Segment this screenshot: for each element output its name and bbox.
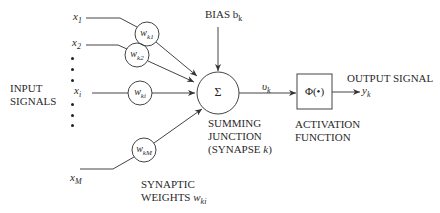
ellipsis-dot bbox=[71, 79, 74, 82]
weight-label-kM: wkM bbox=[132, 143, 156, 157]
output-signal-label: OUTPUT SIGNAL bbox=[347, 72, 433, 85]
input-line-xM bbox=[80, 157, 134, 169]
weight-line-kM bbox=[154, 109, 202, 143]
activation-symbol: Φ(•) bbox=[297, 85, 332, 97]
input-x1: x1 bbox=[73, 10, 82, 25]
synaptic-weights-label: SYNAPTIC WEIGHTS wki bbox=[141, 178, 206, 208]
sigma-symbol: Σ bbox=[208, 85, 228, 100]
output-yk: yk bbox=[362, 84, 370, 99]
bias-label: BIAS bk bbox=[205, 8, 242, 25]
input-signals-label: INPUT SIGNALS bbox=[10, 82, 56, 108]
weight-line-k1 bbox=[156, 42, 197, 76]
ellipsis-dot bbox=[71, 103, 74, 106]
weight-label-k1: wk1 bbox=[135, 27, 159, 41]
ellipsis-dot bbox=[71, 57, 74, 60]
input-xM: xM bbox=[70, 171, 82, 186]
input-line-x1 bbox=[86, 18, 137, 27]
ellipsis-dot bbox=[71, 114, 74, 117]
input-xi: xi bbox=[74, 84, 81, 99]
input-line-x2 bbox=[86, 45, 127, 49]
neuron-diagram-lines bbox=[0, 0, 440, 213]
ellipsis-dot bbox=[71, 68, 74, 71]
weight-label-k2: wk2 bbox=[125, 48, 149, 62]
weight-label-ki: wki bbox=[128, 86, 152, 100]
induced-field-vk: υk bbox=[262, 80, 271, 95]
summing-junction-label: SUMMING JUNCTION (SYNAPSE k) bbox=[208, 117, 272, 156]
ellipsis-dot bbox=[71, 124, 74, 127]
weight-line-k2 bbox=[148, 61, 194, 82]
input-x2: x2 bbox=[72, 36, 81, 51]
activation-function-label: ACTIVATION FUNCTION bbox=[295, 118, 360, 144]
